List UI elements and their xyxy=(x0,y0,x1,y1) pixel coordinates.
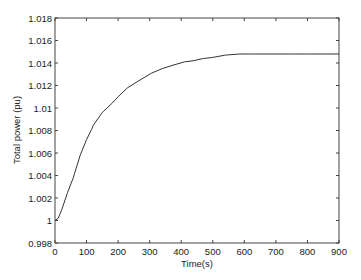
x-tick-label: 400 xyxy=(173,246,189,257)
x-tick-label: 600 xyxy=(236,246,252,257)
y-axis-label: Total power (pu) xyxy=(11,96,22,164)
x-tick-label: 300 xyxy=(142,246,158,257)
x-tick-label: 900 xyxy=(331,246,347,257)
y-tick-label: 1.008 xyxy=(28,125,52,136)
y-tick-label: 1.006 xyxy=(28,148,52,159)
y-tick-label: 1.018 xyxy=(28,13,52,24)
x-tick-label: 800 xyxy=(300,246,316,257)
x-tick-label: 100 xyxy=(79,246,95,257)
x-axis-label: Time(s) xyxy=(181,258,213,269)
x-tick-label: 700 xyxy=(268,246,284,257)
y-tick-label: 1.012 xyxy=(28,80,52,91)
x-tick-label: 500 xyxy=(205,246,221,257)
y-tick-label: 1.01 xyxy=(34,103,53,114)
y-tick-label: 1.016 xyxy=(28,35,52,46)
y-tick-label: 1 xyxy=(47,215,52,226)
y-tick-label: 0.998 xyxy=(28,238,52,249)
y-tick-label: 1.002 xyxy=(28,193,52,204)
x-tick-label: 0 xyxy=(52,246,57,257)
x-tick-label: 200 xyxy=(110,246,126,257)
plot-area xyxy=(55,18,339,243)
y-tick-label: 1.014 xyxy=(28,58,52,69)
y-tick-label: 1.004 xyxy=(28,170,52,181)
line-chart: 0100200300400500600700800900 0.99811.002… xyxy=(0,0,361,280)
